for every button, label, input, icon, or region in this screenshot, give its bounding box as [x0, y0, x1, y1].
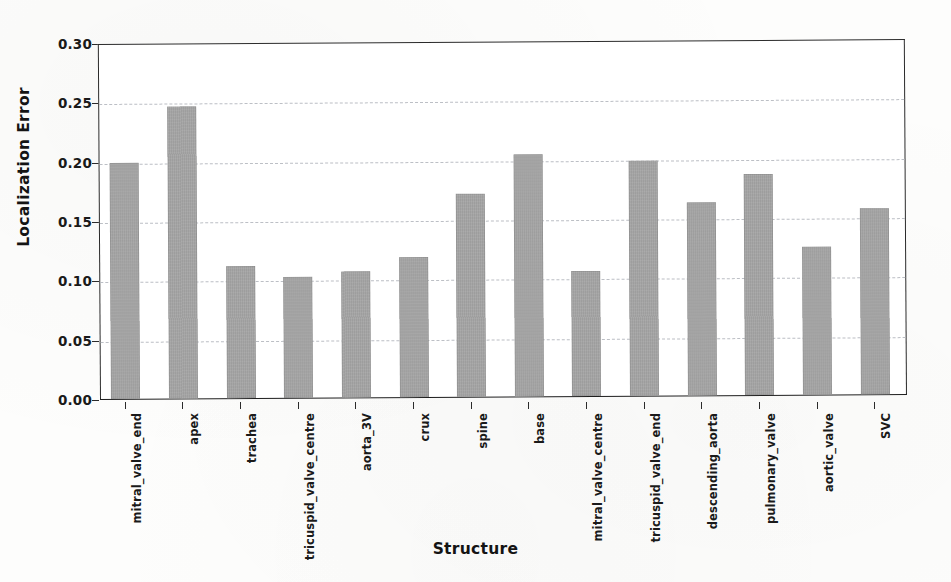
x-axis-tick-label: tricuspid_valve_end	[649, 413, 663, 542]
y-axis-tick-label: 0.00	[58, 392, 92, 408]
x-axis-tick-mark	[586, 402, 587, 409]
x-axis-tick-label: apex	[187, 413, 201, 445]
bar	[456, 194, 486, 397]
x-axis-tick-mark	[413, 402, 414, 409]
y-axis-tick-mark	[92, 341, 99, 342]
bar	[399, 257, 429, 397]
bar	[629, 161, 659, 396]
x-axis-tick-label: pulmonary_valve	[764, 413, 778, 524]
x-axis-tick-labels: mitral_valve_endapextracheatricuspid_val…	[100, 402, 907, 532]
x-axis-tick-mark	[874, 402, 875, 409]
x-axis-tick-label: mitral_valve_centre	[591, 413, 605, 541]
bar	[572, 271, 602, 396]
y-axis-tick-label: 0.20	[58, 155, 92, 171]
x-axis-tick-label: spine	[476, 413, 490, 449]
x-axis-tick-mark	[182, 402, 183, 409]
y-axis-tick-label: 0.05	[58, 333, 92, 349]
y-axis-title: Localization Error	[15, 17, 33, 317]
bar	[341, 272, 371, 398]
y-axis-tick-label: 0.10	[58, 273, 92, 289]
x-axis-tick-mark	[355, 402, 356, 409]
bar	[513, 154, 543, 396]
y-axis-tick-mark	[92, 281, 99, 282]
bar	[744, 174, 774, 395]
bar	[860, 208, 890, 394]
bar	[802, 246, 832, 395]
x-axis-tick-label: SVC	[879, 413, 893, 439]
x-axis-tick-label: aorta_3V	[360, 413, 374, 471]
x-axis-tick-mark	[298, 402, 299, 409]
x-axis-tick-mark	[644, 402, 645, 409]
x-axis-tick-label: trachea	[245, 413, 259, 463]
x-axis-tick-label: mitral_valve_end	[130, 413, 144, 524]
x-axis-tick-mark	[240, 402, 241, 409]
bar	[284, 277, 314, 398]
x-axis-tick-mark	[759, 402, 760, 409]
x-axis-tick-mark	[701, 402, 702, 409]
x-axis-tick-mark	[471, 402, 472, 409]
bar	[687, 202, 717, 396]
x-axis-tick-label: crux	[418, 413, 432, 442]
x-axis-tick-label: tricuspid_valve_centre	[303, 413, 317, 560]
y-axis-tick-mark	[92, 400, 99, 401]
y-axis-tick-label: 0.15	[58, 214, 92, 230]
bar	[226, 266, 256, 398]
bars-layer	[99, 40, 906, 399]
bar	[167, 107, 198, 399]
x-axis-tick-label: aortic_valve	[822, 413, 836, 492]
x-axis-tick-mark	[817, 402, 818, 409]
x-axis-tick-label: descending_aorta	[706, 413, 720, 529]
bar	[110, 163, 140, 399]
y-axis-tick-labels: 0.000.050.100.150.200.250.30	[36, 44, 92, 400]
plot-area	[98, 39, 907, 400]
y-axis-tick-label: 0.30	[58, 36, 92, 52]
x-axis-tick-mark	[125, 402, 126, 409]
chart-page: Localization Error 0.000.050.100.150.200…	[0, 0, 951, 582]
x-axis-title: Structure	[0, 540, 951, 558]
x-axis-tick-mark	[528, 402, 529, 409]
y-axis-tick-label: 0.25	[58, 95, 92, 111]
x-axis-tick-label: base	[533, 413, 547, 444]
